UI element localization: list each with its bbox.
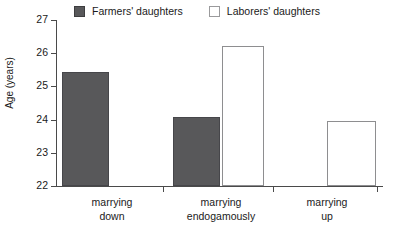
x-axis-category-label-marrying-down: marrying down <box>57 196 167 223</box>
y-axis-tick-label-22: 22 <box>36 179 48 192</box>
category-line-2: endogamously <box>166 210 276 224</box>
y-axis-tick-label-23: 23 <box>36 146 48 159</box>
y-axis-line <box>56 20 57 186</box>
y-axis-tick-label-26: 26 <box>36 46 48 59</box>
y-axis-tick-26: 26 <box>51 53 56 54</box>
category-line-1: marrying <box>275 196 379 210</box>
y-axis-tick-label-27: 27 <box>36 13 48 26</box>
x-axis-category-label-marrying-up: marrying up <box>275 196 379 223</box>
x-axis-tick-2 <box>273 187 274 192</box>
x-axis-tick-3 <box>377 187 378 192</box>
category-line-1: marrying <box>57 196 167 210</box>
category-line-2: down <box>57 210 167 224</box>
x-axis-tick-1 <box>163 187 164 192</box>
y-axis-title: Age (years) <box>3 0 16 166</box>
y-axis-tick-22: 22 <box>51 186 56 187</box>
y-axis-tick-25: 25 <box>51 86 56 87</box>
y-axis-tick-24: 24 <box>51 120 56 121</box>
category-line-1: marrying <box>166 196 276 210</box>
category-line-2: up <box>275 210 379 224</box>
bar-farmers-marrying-endogamously <box>173 117 220 186</box>
legend-label-farmers-daughters: Farmers' daughters <box>92 6 183 17</box>
x-axis-line <box>56 186 383 187</box>
y-axis-tick-label-25: 25 <box>36 79 48 92</box>
legend-entry-farmers-daughters: Farmers' daughters <box>74 6 183 17</box>
hollow-square-icon <box>209 6 220 17</box>
filled-square-icon <box>74 6 85 17</box>
bar-chart-figure: Farmers' daughters Laborers' daughters A… <box>0 0 394 235</box>
y-axis-tick-label-24: 24 <box>36 113 48 126</box>
y-axis-tick-23: 23 <box>51 153 56 154</box>
x-axis-category-label-marrying-endogamously: marrying endogamously <box>166 196 276 223</box>
plot-area: 22 23 24 25 26 27 marrying down <box>56 20 383 186</box>
bar-farmers-marrying-down <box>62 72 109 186</box>
legend-label-laborers-daughters: Laborers' daughters <box>227 6 320 17</box>
y-axis-tick-27: 27 <box>51 20 56 21</box>
legend-entry-laborers-daughters: Laborers' daughters <box>209 6 320 17</box>
bar-laborers-marrying-endogamously <box>222 46 264 186</box>
chart-legend: Farmers' daughters Laborers' daughters <box>0 3 394 19</box>
bar-laborers-marrying-up <box>327 121 376 186</box>
